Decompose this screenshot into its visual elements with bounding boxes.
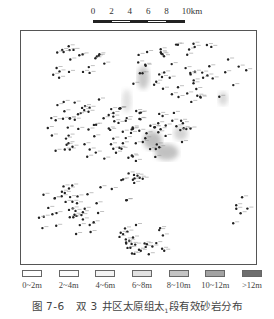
well-point	[139, 118, 146, 121]
well-point	[137, 53, 144, 56]
well-point	[80, 214, 87, 217]
well-point	[67, 126, 74, 129]
legend-swatch	[22, 270, 42, 277]
well-point	[93, 135, 100, 138]
well-point	[118, 235, 125, 238]
scale-segment	[94, 21, 112, 22]
well-point	[134, 243, 141, 246]
well-point	[146, 243, 153, 246]
well-point	[58, 70, 65, 73]
well-point	[161, 115, 168, 118]
well-point	[69, 196, 76, 199]
well-point	[177, 96, 184, 99]
well-point	[181, 141, 188, 144]
well-point	[103, 157, 110, 160]
legend-label: 2~4m	[59, 280, 79, 290]
well-point	[51, 134, 58, 137]
scale-bar-labels: 0 2 4 6 8 10km	[88, 6, 188, 18]
well-point	[124, 227, 131, 230]
well-point	[68, 70, 75, 73]
well-point	[112, 137, 119, 140]
well-point	[42, 193, 49, 196]
scale-tick-0: 0	[91, 6, 96, 16]
well-point	[81, 53, 88, 56]
well-point	[55, 67, 62, 70]
well-point	[69, 58, 76, 61]
well-point	[192, 82, 199, 85]
well-point	[133, 181, 140, 184]
legend-item: >12m	[234, 270, 270, 294]
well-point	[169, 76, 176, 79]
well-point	[182, 122, 189, 125]
map-frame	[20, 30, 257, 265]
well-point	[102, 117, 109, 120]
well-point	[153, 83, 160, 86]
well-point	[122, 130, 129, 133]
legend-label: 4~6m	[95, 280, 115, 290]
well-point	[89, 231, 96, 234]
well-point	[41, 227, 48, 230]
legend-item: 4~6m	[87, 270, 123, 294]
well-point	[130, 242, 137, 245]
well-point	[135, 142, 142, 145]
well-point	[47, 206, 54, 209]
well-point	[122, 233, 129, 236]
well-point	[62, 117, 69, 120]
well-point	[74, 101, 81, 104]
legend-label: 10~12m	[201, 280, 229, 290]
well-point	[188, 48, 195, 51]
well-point	[171, 63, 178, 66]
well-point	[232, 222, 239, 225]
well-point	[245, 69, 252, 72]
legend-item: 10~12m	[197, 270, 233, 294]
scale-bar: 0 2 4 6 8 10km	[88, 6, 188, 28]
well-point	[72, 48, 79, 51]
well-point	[235, 207, 242, 210]
well-point	[89, 148, 96, 151]
legend-swatch	[242, 270, 262, 277]
legend-item: 8~10m	[161, 270, 197, 294]
well-point	[68, 187, 75, 190]
well-point	[133, 252, 140, 255]
well-point	[75, 233, 82, 236]
figure-number: 图 7-6	[32, 300, 65, 312]
sandstone-distribution-map	[21, 31, 256, 264]
well-point	[164, 134, 171, 137]
scale-tick-2: 2	[109, 6, 114, 16]
well-point	[186, 92, 193, 95]
well-point	[125, 199, 132, 202]
well-point	[76, 195, 83, 198]
well-point	[71, 184, 78, 187]
well-point	[117, 121, 124, 124]
scale-segment	[112, 21, 130, 22]
scale-bar-track	[93, 20, 185, 23]
well-point	[87, 128, 94, 131]
well-point	[56, 51, 63, 54]
well-point	[68, 45, 75, 48]
legend-label: >12m	[242, 280, 262, 290]
scale-tick-6: 6	[146, 6, 151, 16]
well-point	[71, 145, 78, 148]
well-point	[93, 221, 100, 224]
scale-segment	[148, 21, 166, 22]
well-point	[95, 151, 102, 154]
well-point	[145, 64, 152, 67]
well-point	[159, 128, 166, 131]
well-point	[224, 71, 231, 74]
well-point	[125, 119, 132, 122]
well-point	[138, 129, 145, 132]
well-point	[163, 249, 170, 252]
well-point	[190, 100, 197, 103]
well-point	[158, 112, 165, 115]
well-point	[202, 76, 209, 79]
well-point	[84, 207, 91, 210]
well-point	[148, 253, 155, 256]
well-point	[135, 159, 142, 162]
legend-swatch	[205, 270, 225, 277]
well-point	[126, 117, 133, 120]
legend-item: 0~2m	[14, 270, 50, 294]
well-point	[238, 65, 245, 68]
well-point	[55, 212, 62, 215]
well-point	[52, 73, 59, 76]
well-point	[55, 224, 62, 227]
